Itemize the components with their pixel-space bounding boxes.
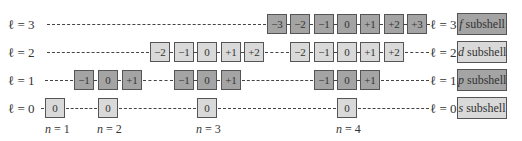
n-value: = 4 xyxy=(342,122,361,136)
dashed-connector xyxy=(405,52,429,53)
connector-tick xyxy=(334,24,337,25)
l-label-right: ℓ = 0 xyxy=(430,98,457,120)
ml-box: +1 xyxy=(360,14,380,34)
dashed-connector xyxy=(242,80,313,81)
connector-tick xyxy=(310,24,313,25)
connector-tick xyxy=(380,24,383,25)
connector-tick xyxy=(194,80,197,81)
l-label-left: ℓ = 3 xyxy=(8,14,35,36)
l-label-left: ℓ = 2 xyxy=(8,42,35,64)
ml-box: +2 xyxy=(244,42,264,62)
ml-box: −1 xyxy=(174,42,194,62)
subshell-word: subshell xyxy=(467,73,506,87)
ml-box: 0 xyxy=(197,70,217,90)
dashed-connector xyxy=(47,24,266,25)
row-l2: ℓ = 2 −2 −1 0 +1 +2 −2 −1 0 +1 +2 ℓ = 2 … xyxy=(0,42,522,64)
row-l1: ℓ = 1 −1 0 +1 −1 0 +1 −1 0 +1 ℓ = 1 p su… xyxy=(0,70,522,92)
subshell-label-p: p subshell xyxy=(457,69,507,91)
ml-box: 0 xyxy=(337,14,357,34)
ml-box: −1 xyxy=(314,70,334,90)
ml-box: 0 xyxy=(45,98,65,118)
ml-box: −1 xyxy=(314,42,334,62)
ml-box: 0 xyxy=(98,70,118,90)
ml-box: +1 xyxy=(221,70,241,90)
ml-box: 0 xyxy=(337,42,357,62)
ml-box: +1 xyxy=(360,42,380,62)
ml-box: 0 xyxy=(197,98,217,118)
connector-tick xyxy=(287,24,290,25)
n-label-1: n = 1 xyxy=(45,122,70,137)
connector-tick xyxy=(404,24,407,25)
subshell-letter: d xyxy=(458,45,464,59)
subshell-letter: f xyxy=(459,17,462,31)
ml-box: +1 xyxy=(122,70,142,90)
connector-tick xyxy=(170,52,173,53)
subshell-word: subshell xyxy=(466,101,505,115)
n-label-3: n = 3 xyxy=(196,122,221,137)
connector-tick xyxy=(41,108,44,109)
ml-box: +1 xyxy=(221,42,241,62)
ml-box: +2 xyxy=(384,42,404,62)
n-value: = 3 xyxy=(202,122,221,136)
dashed-connector xyxy=(358,108,429,109)
ml-box: +3 xyxy=(407,14,427,34)
ml-box: +1 xyxy=(360,70,380,90)
dashed-connector xyxy=(47,52,149,53)
subshell-word: subshell xyxy=(466,17,505,31)
dashed-connector xyxy=(218,108,336,109)
dashed-connector xyxy=(143,80,173,81)
dashed-connector xyxy=(119,108,196,109)
connector-tick xyxy=(380,52,383,53)
subshell-letter: p xyxy=(458,73,464,87)
connector-tick xyxy=(194,52,197,53)
l-label-left: ℓ = 1 xyxy=(8,70,35,92)
ml-box: −1 xyxy=(74,70,94,90)
connector-tick xyxy=(357,80,360,81)
n-value: = 1 xyxy=(51,122,70,136)
subshell-word: subshell xyxy=(467,45,506,59)
ml-box: 0 xyxy=(98,98,118,118)
ml-box: −2 xyxy=(290,14,310,34)
connector-tick xyxy=(310,52,313,53)
n-label-4: n = 4 xyxy=(336,122,361,137)
connector-tick xyxy=(94,80,97,81)
ml-box: 0 xyxy=(337,98,357,118)
connector-tick xyxy=(334,52,337,53)
ml-box: −1 xyxy=(314,14,334,34)
dashed-connector xyxy=(66,108,97,109)
subshell-label-d: d subshell xyxy=(457,41,507,63)
l-label-right: ℓ = 3 xyxy=(430,14,457,36)
ml-box: −1 xyxy=(174,70,194,90)
ml-box: 0 xyxy=(337,70,357,90)
connector-tick xyxy=(118,80,121,81)
ml-box: −2 xyxy=(290,42,310,62)
row-l0: ℓ = 0 0 0 0 0 ℓ = 0 s subshell xyxy=(0,98,522,120)
subshell-letter: s xyxy=(458,101,463,115)
ml-box: −2 xyxy=(150,42,170,62)
l-label-right: ℓ = 2 xyxy=(430,42,457,64)
dashed-connector xyxy=(265,52,289,53)
connector-tick xyxy=(217,80,220,81)
connector-tick xyxy=(357,52,360,53)
connector-tick xyxy=(217,52,220,53)
l-label-right: ℓ = 1 xyxy=(430,70,457,92)
connector-tick xyxy=(241,52,244,53)
l-label-left: ℓ = 0 xyxy=(8,98,35,120)
subshell-label-f: f subshell xyxy=(457,13,507,35)
connector-tick xyxy=(334,80,337,81)
dashed-connector xyxy=(381,80,429,81)
dashed-connector xyxy=(45,80,73,81)
subshell-label-s: s subshell xyxy=(457,97,507,119)
ml-box: −3 xyxy=(267,14,287,34)
row-l3: ℓ = 3 −3 −2 −1 0 +1 +2 +3 ℓ = 3 f subshe… xyxy=(0,14,522,36)
n-label-2: n = 2 xyxy=(97,122,122,137)
n-value: = 2 xyxy=(103,122,122,136)
connector-tick xyxy=(357,24,360,25)
ml-box: +2 xyxy=(384,14,404,34)
ml-box: 0 xyxy=(197,42,217,62)
